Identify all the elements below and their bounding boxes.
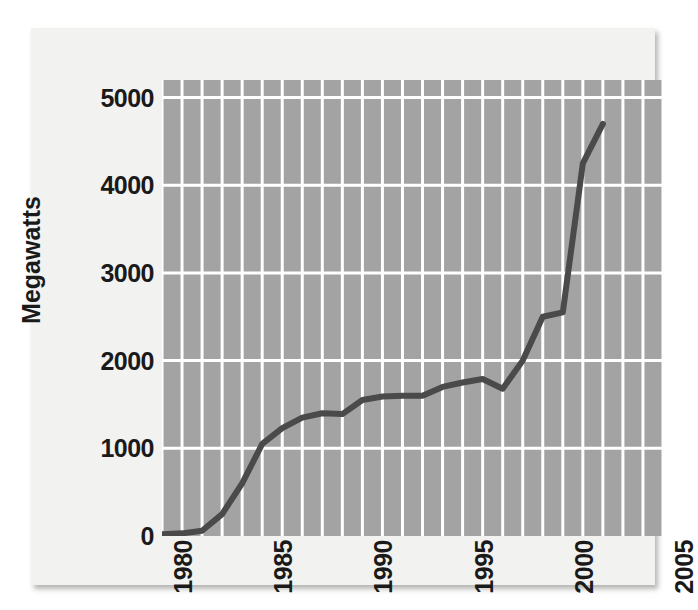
x-tick-label: 2005 — [672, 540, 697, 594]
x-tick-label: 1980 — [171, 540, 196, 594]
y-tick-label: 4000 — [62, 173, 154, 198]
data-series-line — [162, 80, 663, 536]
y-tick-label: 2000 — [62, 349, 154, 374]
chart-figure-panel: Megawatts 500040003000200010000 19801985… — [31, 28, 655, 585]
y-tick-label: 1000 — [62, 436, 154, 461]
x-tick-label: 1990 — [371, 540, 396, 594]
x-axis-tick-labels: 198019851990199520002005 — [162, 536, 663, 610]
y-tick-label: 0 — [62, 524, 154, 549]
y-axis-tick-labels: 500040003000200010000 — [58, 80, 154, 536]
plot-area — [162, 80, 663, 536]
y-tick-label: 5000 — [62, 86, 154, 111]
x-tick-label: 1985 — [271, 540, 296, 594]
x-tick-label: 2000 — [572, 540, 597, 594]
x-tick-label: 1995 — [472, 540, 497, 594]
y-axis-title: Megawatts — [19, 196, 44, 324]
y-tick-label: 3000 — [62, 261, 154, 286]
